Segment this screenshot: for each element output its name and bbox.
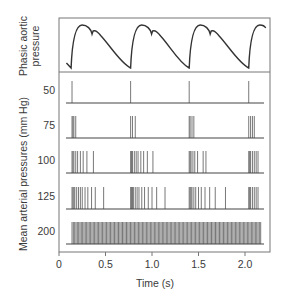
spike-rasters — [66, 81, 264, 244]
spike-train-50 — [66, 81, 264, 103]
aortic-label-line2: pressure — [29, 25, 41, 66]
x-tick-label: 2.0 — [238, 258, 253, 270]
aortic-label-line1: Phasic aortic — [17, 16, 29, 76]
x-axis: 00.51.01.52.0 — [56, 252, 252, 270]
y-axis-label: Mean arterial pressures (mm Hg) — [17, 97, 29, 251]
aortic-pressure-trace — [66, 25, 265, 68]
plot-frame — [59, 18, 270, 252]
baroreceptor-figure: 00.51.01.52.0 Phasic aortic pressure Mea… — [0, 0, 284, 297]
row-label-100: 100 — [37, 154, 55, 166]
row-label-200: 200 — [37, 225, 55, 237]
row-label-125: 125 — [37, 190, 55, 202]
row-label-50: 50 — [43, 84, 55, 96]
pressure-row-labels: 5075100125200 — [37, 84, 55, 237]
spike-train-125 — [66, 187, 264, 209]
row-label-75: 75 — [43, 119, 55, 131]
x-tick-label: 1.5 — [191, 258, 206, 270]
x-axis-label: Time (s) — [136, 277, 174, 289]
x-tick-label: 0 — [56, 258, 62, 270]
aortic-waveform — [66, 25, 265, 68]
spike-train-100 — [66, 151, 264, 173]
spike-train-75 — [66, 116, 264, 138]
spike-train-200 — [66, 222, 264, 244]
x-tick-label: 0.5 — [98, 258, 113, 270]
x-tick-label: 1.0 — [145, 258, 160, 270]
